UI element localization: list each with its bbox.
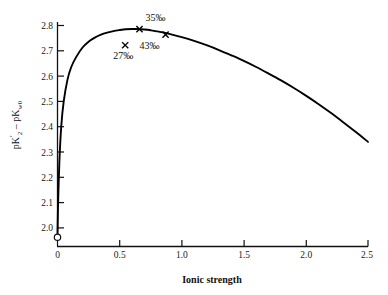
x-tick-label: 2.5 xyxy=(361,250,373,260)
point-annotation-label: 27‰ xyxy=(113,50,133,61)
y-tick-label: 2.2 xyxy=(41,173,53,183)
x-tick-label: 1.0 xyxy=(176,250,188,260)
x-tick-label: 0.5 xyxy=(114,250,126,260)
y-tick-label: 2.0 xyxy=(41,223,53,233)
x-axis-ticks xyxy=(58,240,369,247)
y-axis-title-pk2-base: pK xyxy=(10,136,21,149)
y-tick-label: 2.3 xyxy=(41,148,53,158)
y-tick-label: 2.6 xyxy=(41,72,53,82)
y-axis-title: pK′2 – pKw0 xyxy=(9,100,24,149)
chart-plot-area: 2.8 2.7 2.6 2.5 2.4 2.3 2.2 2.1 2.0 0 0.… xyxy=(0,0,388,295)
y-tick-label: 2.1 xyxy=(41,198,53,208)
chart-figure: 2.8 2.7 2.6 2.5 2.4 2.3 2.2 2.1 2.0 0 0.… xyxy=(0,0,388,295)
y-axis-title-pkw-base: pK xyxy=(10,109,21,122)
annotation-labels: 35‰43‰27‰ xyxy=(113,12,165,61)
open-circle-marker-icon xyxy=(54,234,60,240)
y-tick-label: 2.8 xyxy=(41,21,53,31)
cross-marker-icon xyxy=(122,42,128,48)
x-tick-label: 1.5 xyxy=(238,250,250,260)
y-tick-label: 2.4 xyxy=(41,122,53,132)
svg-text:pK′2 – pKw0: pK′2 – pKw0 xyxy=(9,100,24,149)
y-tick-label: 2.7 xyxy=(41,46,53,56)
x-tick-label: 2.0 xyxy=(300,250,312,260)
y-tick-label: 2.5 xyxy=(41,97,53,107)
x-tick-label: 0 xyxy=(55,250,60,260)
point-annotation-label: 35‰ xyxy=(145,12,165,23)
point-annotation-label: 43‰ xyxy=(140,40,160,51)
data-curve xyxy=(58,29,369,235)
x-axis-title: Ionic strength xyxy=(182,274,242,285)
data-point-markers xyxy=(54,26,168,241)
y-axis-title-subw0: w0 xyxy=(16,100,24,109)
